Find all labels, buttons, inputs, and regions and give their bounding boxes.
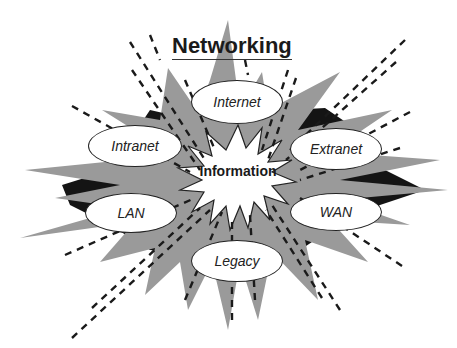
node-label: Legacy xyxy=(214,253,259,269)
node-intranet: Intranet xyxy=(88,125,182,167)
node-wan: WAN xyxy=(290,193,382,231)
node-internet: Internet xyxy=(191,80,283,124)
node-label: Intranet xyxy=(111,138,158,154)
node-label: Extranet xyxy=(310,141,362,157)
node-lan: LAN xyxy=(85,193,177,233)
diagram-title: Networking xyxy=(172,34,292,60)
node-legacy: Legacy xyxy=(191,240,283,282)
node-extranet: Extranet xyxy=(290,128,382,170)
node-label: LAN xyxy=(117,205,144,221)
networking-diagram: Networking Internet Intranet Extranet LA… xyxy=(0,0,457,348)
center-label: Information xyxy=(193,163,283,179)
node-label: Internet xyxy=(213,94,260,110)
node-label: WAN xyxy=(320,204,352,220)
